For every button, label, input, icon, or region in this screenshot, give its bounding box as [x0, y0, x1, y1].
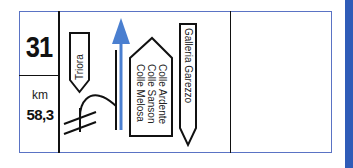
straight-arrow-head-icon	[112, 18, 130, 44]
triora-label: Triora	[75, 54, 85, 80]
junction-diagram	[0, 0, 353, 168]
side-road-curve	[80, 95, 116, 117]
colle-destination-3: Colle Melosa	[135, 64, 145, 122]
colle-destination-2: Colle Sanson	[146, 64, 156, 123]
colle-destination-1: Colle Ardente	[157, 64, 167, 124]
galleria-label: Galleria Garezzo	[183, 28, 193, 103]
